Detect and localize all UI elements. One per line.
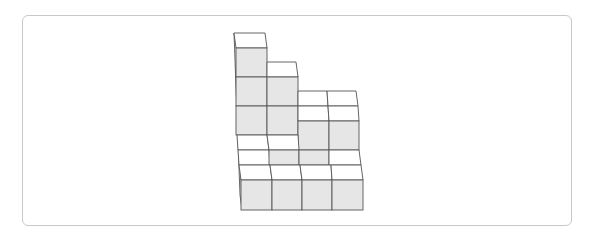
- cube-front-face: [329, 121, 359, 150]
- cube-front-face: [299, 150, 329, 165]
- cube-top-face: [327, 91, 358, 106]
- cube-top-face: [239, 165, 272, 180]
- cube-front-face: [272, 180, 302, 210]
- cube-top-face: [328, 106, 359, 121]
- cube-front-face: [236, 48, 267, 77]
- cube-front-face: [298, 121, 329, 150]
- cube-top-face: [300, 165, 332, 180]
- cube-front-face: [267, 77, 298, 106]
- cube-front-face: [236, 106, 267, 135]
- cube-front-face: [241, 180, 272, 210]
- cube-top-face: [331, 165, 363, 180]
- cube-front-face: [269, 150, 299, 165]
- cube-top-face: [329, 150, 361, 165]
- cube-top-face: [238, 150, 270, 165]
- cube-top-face: [267, 62, 298, 77]
- cube-top-face: [298, 106, 329, 121]
- cube-top-face: [298, 91, 328, 106]
- cube-top-face: [237, 135, 269, 150]
- cube-top-face: [267, 135, 299, 150]
- cube-front-face: [332, 180, 363, 210]
- cube-stack-diagram: [0, 0, 589, 238]
- cube-top-face: [270, 165, 302, 180]
- cube-front-face: [267, 106, 298, 135]
- cube-top-face: [234, 33, 267, 48]
- cube-front-face: [236, 77, 267, 106]
- cube-front-face: [302, 180, 332, 210]
